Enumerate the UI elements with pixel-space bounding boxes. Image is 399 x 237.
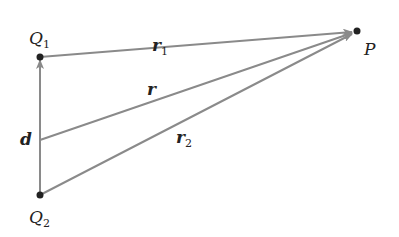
label-p: P bbox=[363, 39, 376, 59]
label-r2: r2 bbox=[176, 127, 192, 150]
point-q2 bbox=[37, 192, 44, 199]
label-r1: r1 bbox=[152, 35, 168, 58]
label-d: d bbox=[20, 129, 32, 149]
dipole-diagram: Q1 Q2 P d r1 r r2 bbox=[0, 0, 399, 237]
label-r: r bbox=[147, 79, 157, 99]
point-q1 bbox=[37, 54, 44, 61]
label-q2: Q2 bbox=[29, 207, 50, 230]
vector-r1 bbox=[40, 32, 352, 57]
vector-r2 bbox=[40, 34, 352, 195]
vector-r bbox=[40, 33, 352, 140]
label-q1: Q1 bbox=[29, 28, 50, 51]
point-p bbox=[354, 28, 361, 35]
